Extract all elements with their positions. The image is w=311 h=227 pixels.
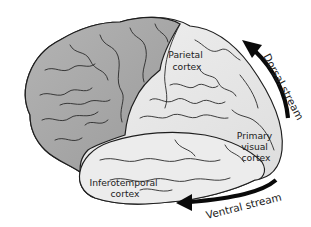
parietal-cortex-label: Parietal cortex bbox=[168, 49, 205, 72]
primary-visual-cortex-label: Primary visual cortex bbox=[237, 130, 275, 163]
brain-diagram: Parietal cortex Primary visual cortex In… bbox=[0, 0, 311, 227]
